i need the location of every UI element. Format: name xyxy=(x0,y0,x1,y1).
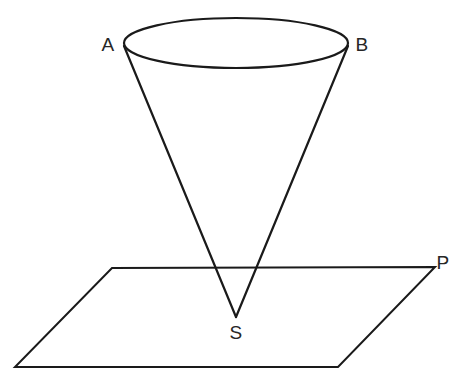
vertex-label-s: S xyxy=(230,323,243,342)
cone-slant-right-B-to-S xyxy=(236,46,348,317)
vertex-label-b: B xyxy=(356,35,369,54)
geometry-figure: A B S P xyxy=(0,0,469,383)
cone-slant-left-A-to-S xyxy=(124,46,236,317)
plane-parallelogram xyxy=(15,267,435,367)
vertex-label-p: P xyxy=(437,253,450,272)
vertex-label-a: A xyxy=(102,35,115,54)
cone-base-ellipse xyxy=(124,18,348,68)
